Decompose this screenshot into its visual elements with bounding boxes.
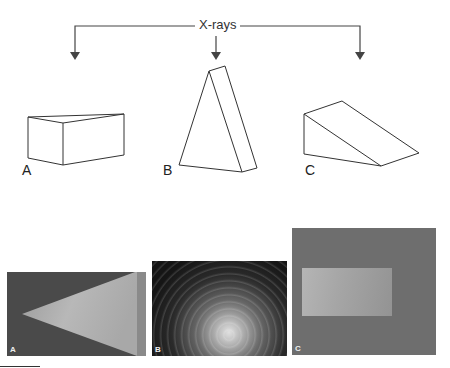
radiograph-c: C: [292, 228, 436, 355]
radiograph-a: A: [7, 272, 146, 356]
photo-label-a: A: [10, 345, 16, 354]
arrow-down-icon: [211, 52, 221, 60]
shapes-diagram: [0, 0, 450, 260]
ring-artifact: [152, 261, 287, 356]
arrowheads: [70, 52, 365, 60]
shape-a: [28, 114, 124, 165]
xray-source-label: X-rays: [196, 17, 240, 32]
shape-c: [304, 101, 419, 166]
divider: [0, 366, 40, 367]
photo-label-b: B: [155, 345, 161, 354]
shape-label-b: B: [163, 162, 172, 178]
arrow-down-icon: [355, 52, 365, 60]
shape-label-c: C: [305, 162, 315, 178]
arrow-down-icon: [70, 52, 80, 60]
shape-label-a: A: [22, 162, 31, 178]
wedge-shadow: [302, 268, 392, 316]
xray-orientation-figure: X-rays A B C A B C: [0, 0, 450, 368]
photo-label-c: C: [295, 344, 301, 353]
radiograph-b: B: [152, 261, 287, 356]
shape-b: [179, 66, 257, 172]
